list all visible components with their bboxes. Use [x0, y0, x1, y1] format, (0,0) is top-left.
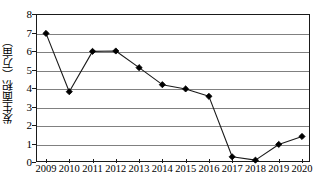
y-axis-tick-label: 7	[27, 27, 33, 38]
data-point-marker	[206, 93, 212, 99]
data-point-marker	[43, 30, 49, 36]
y-axis-tick-label: 2	[27, 120, 33, 131]
y-axis-tick-labels: 012345678	[18, 0, 34, 187]
chart-figure: 发生面积（万亩） 012345678 200920102011201220132…	[0, 0, 316, 187]
data-series-line	[36, 14, 310, 162]
y-axis-tick-label: 5	[27, 64, 33, 75]
x-axis-tick-label: 2013	[129, 164, 150, 175]
y-axis-tick-label: 4	[27, 83, 33, 94]
y-axis-title-text: 发生面积（万亩）	[1, 36, 17, 124]
data-point-marker	[229, 154, 235, 160]
data-point-marker	[66, 89, 72, 95]
x-axis-tick-labels: 2009201020112012201320142015201620172018…	[36, 164, 310, 184]
x-axis-tick-label: 2017	[222, 164, 243, 175]
y-axis-tick-label: 6	[27, 46, 33, 57]
x-axis-tick-label: 2010	[59, 164, 80, 175]
series-polyline	[46, 33, 302, 160]
y-axis-tick-label: 1	[27, 138, 33, 149]
y-axis-tick-label: 3	[27, 101, 33, 112]
data-point-marker	[299, 133, 305, 139]
x-axis-tick-label: 2016	[198, 164, 219, 175]
data-point-marker	[89, 48, 95, 54]
y-axis-title: 发生面积（万亩）	[0, 0, 18, 160]
x-axis-tick-label: 2015	[175, 164, 196, 175]
x-axis-tick-label: 2020	[292, 164, 313, 175]
data-point-marker	[276, 141, 282, 147]
y-axis-tick-label: 8	[27, 9, 33, 20]
x-axis-tick-label: 2019	[268, 164, 289, 175]
data-point-marker	[183, 86, 189, 92]
x-axis-tick-label: 2011	[82, 164, 103, 175]
x-axis-tick-label: 2014	[152, 164, 173, 175]
x-axis-tick-label: 2012	[105, 164, 126, 175]
x-axis-tick-label: 2018	[245, 164, 266, 175]
y-axis-tick-label: 0	[27, 157, 33, 168]
x-axis-tick-label: 2009	[36, 164, 57, 175]
